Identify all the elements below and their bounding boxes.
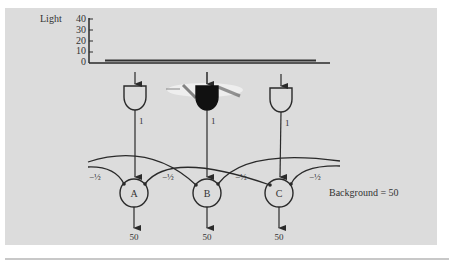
neuron-a: A 50 (120, 179, 148, 242)
neuron-c-output: 50 (275, 232, 285, 242)
lateral-inhibition-diagram: Light 40 30 20 10 0 1 1 1 (0, 0, 449, 261)
inhibition-weight-3: −½ (235, 172, 247, 182)
neuron-b: B 50 (193, 179, 221, 242)
tick-0: 0 (81, 56, 86, 67)
receptor-2: 1 (166, 72, 243, 177)
receptor-3-weight: 1 (285, 118, 290, 128)
tick-10: 10 (76, 45, 86, 56)
neuron-c: C 50 (265, 179, 293, 242)
background-label: Background = 50 (329, 187, 399, 198)
neuron-b-label: B (204, 188, 211, 199)
receptor-1: 1 (124, 72, 146, 177)
receptor-3: 1 (270, 74, 292, 177)
neuron-c-label: C (276, 188, 283, 199)
inhibition-weight-1: −½ (89, 172, 101, 182)
neuron-a-label: A (130, 188, 138, 199)
light-axis: Light 40 30 20 10 0 (40, 13, 330, 67)
tick-40: 40 (76, 13, 86, 24)
inhibition-weight-2: −½ (162, 172, 174, 182)
receptor-1-weight: 1 (139, 116, 144, 126)
neuron-b-output: 50 (203, 232, 213, 242)
light-axis-label: Light (40, 13, 62, 24)
inhibition-weight-4: −½ (309, 172, 321, 182)
receptor-2-weight: 1 (211, 116, 216, 126)
tick-30: 30 (76, 24, 86, 35)
neuron-a-output: 50 (130, 232, 140, 242)
